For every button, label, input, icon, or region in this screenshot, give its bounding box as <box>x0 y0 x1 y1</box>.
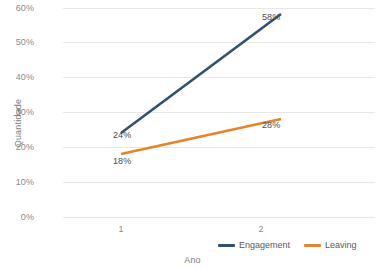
legend-item-engagement[interactable]: Engagement <box>218 240 290 250</box>
gridline-50 <box>63 42 375 43</box>
gridline-30 <box>63 112 375 113</box>
gridline-0 <box>63 217 375 218</box>
y-axis-title: Quantidade <box>13 83 23 163</box>
plot-area <box>63 8 375 217</box>
x-axis-title: Ano <box>0 255 385 265</box>
y-tick-label: 60% <box>0 3 34 13</box>
legend-label: Engagement <box>239 240 290 250</box>
data-label-leaving-1: 18% <box>113 156 131 166</box>
y-tick-label: 50% <box>0 37 34 47</box>
gridline-20 <box>63 147 375 148</box>
y-tick-label: 40% <box>0 72 34 82</box>
gridline-60 <box>63 8 375 9</box>
data-label-engagement-1: 24% <box>113 130 131 140</box>
y-tick-label: 10% <box>0 177 34 187</box>
chart-legend: Engagement Leaving <box>218 240 357 250</box>
legend-label: Leaving <box>325 240 357 250</box>
gridline-10 <box>63 182 375 183</box>
gridline-40 <box>63 77 375 78</box>
line-chart: 60% 50% 40% 30% 20% 10% 0% Quantidade 24… <box>0 0 385 269</box>
legend-swatch-icon <box>218 244 235 247</box>
data-label-leaving-2: 28% <box>262 120 280 130</box>
legend-swatch-icon <box>304 244 321 247</box>
data-label-engagement-2: 58% <box>262 12 280 22</box>
x-tick-label: 1 <box>101 224 141 234</box>
y-tick-label: 0% <box>0 212 34 222</box>
x-tick-label: 2 <box>241 224 281 234</box>
legend-item-leaving[interactable]: Leaving <box>304 240 357 250</box>
